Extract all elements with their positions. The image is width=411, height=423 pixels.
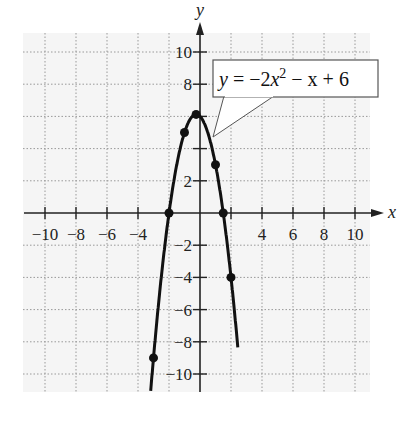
x-tick-label: 4: [258, 225, 267, 244]
data-point: [219, 209, 228, 218]
x-tick-label: 10: [347, 225, 364, 244]
y-tick-label: −4: [174, 268, 193, 287]
y-tick-label: 8: [184, 75, 193, 94]
data-point: [180, 128, 189, 137]
y-tick-label: −8: [174, 333, 192, 352]
data-point: [165, 209, 174, 218]
x-tick-label: 6: [289, 225, 298, 244]
x-tick-label: −10: [32, 225, 59, 244]
data-point: [149, 353, 158, 362]
data-point: [227, 273, 236, 282]
y-tick-label: 10: [175, 43, 192, 62]
x-axis-label: x: [387, 202, 396, 222]
parabola-chart: −10−8−6−4468101082−2−4−6−8−10 y = −2x2 −…: [0, 0, 411, 423]
y-axis-label: y: [194, 0, 204, 20]
x-tick-label: −8: [67, 225, 85, 244]
x-tick-label: 8: [320, 225, 329, 244]
x-tick-label: −6: [98, 225, 116, 244]
y-tick-label: −2: [174, 236, 192, 255]
y-tick-label: −6: [174, 301, 192, 320]
x-tick-label: −4: [129, 225, 148, 244]
y-tick-label: −10: [165, 365, 192, 384]
y-tick-label: 2: [184, 172, 193, 191]
data-point: [192, 110, 201, 119]
data-point: [211, 160, 220, 169]
